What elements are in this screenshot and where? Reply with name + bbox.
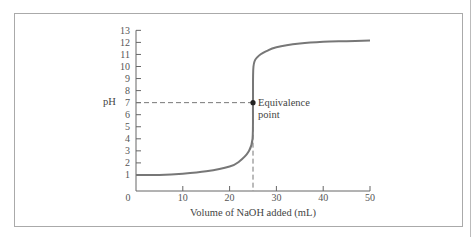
annotation-equivalence: Equivalence bbox=[258, 97, 310, 108]
y-tick-label: 6 bbox=[125, 109, 130, 120]
y-tick-label: 3 bbox=[125, 145, 130, 156]
y-tick-label: 0 bbox=[126, 192, 131, 203]
y-tick-label: 7 bbox=[125, 97, 130, 108]
y-tick-label: 2 bbox=[125, 157, 130, 168]
y-tick-label: 12 bbox=[120, 37, 130, 48]
x-axis-label: Volume of NaOH added (mL) bbox=[190, 207, 316, 219]
x-tick-label: 50 bbox=[365, 192, 375, 203]
ticks: 1234567891011121301020304050 bbox=[120, 25, 375, 203]
annotation-point: point bbox=[258, 109, 280, 120]
y-tick-label: 1 bbox=[125, 169, 130, 180]
x-tick-label: 30 bbox=[271, 192, 281, 203]
equivalence-guides bbox=[136, 103, 253, 191]
y-tick-label: 10 bbox=[120, 61, 130, 72]
y-tick-label: 4 bbox=[125, 133, 130, 144]
x-tick-label: 10 bbox=[178, 192, 188, 203]
x-tick-label: 40 bbox=[318, 192, 328, 203]
x-tick-label: 20 bbox=[225, 192, 235, 203]
y-tick-label: 5 bbox=[125, 121, 130, 132]
y-axis-label: pH bbox=[103, 96, 116, 107]
y-tick-label: 8 bbox=[125, 85, 130, 96]
titration-chart: 1234567891011121301020304050 pH Volume o… bbox=[0, 0, 475, 237]
y-tick-label: 13 bbox=[120, 25, 130, 36]
y-tick-label: 9 bbox=[125, 73, 130, 84]
equivalence-point-marker bbox=[250, 100, 255, 105]
y-tick-label: 11 bbox=[120, 49, 130, 60]
